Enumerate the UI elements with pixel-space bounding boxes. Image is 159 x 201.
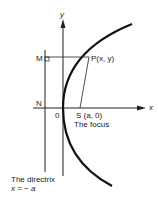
label-directrix-eq: x = − a: [10, 184, 36, 193]
label-s: S (a, 0): [76, 111, 103, 120]
y-axis-arrow-icon: [61, 19, 66, 28]
label-origin: 0: [55, 111, 60, 120]
label-m: M: [36, 54, 43, 63]
label-p: P(x, y): [91, 54, 114, 63]
x-axis-arrow-icon: [137, 106, 146, 111]
label-n: N: [36, 99, 42, 108]
x-axis-label: x: [148, 103, 154, 112]
label-focus: The focus: [74, 120, 109, 129]
y-axis-label: y: [59, 10, 65, 19]
parabola-curve: [63, 24, 132, 186]
parabola-diagram: y x M P(x, y) N 0 S (a, 0) The focus The…: [0, 0, 159, 201]
right-angle-marker: [45, 57, 49, 61]
segment-ps: [80, 57, 89, 108]
label-directrix: The directrix: [11, 175, 55, 184]
